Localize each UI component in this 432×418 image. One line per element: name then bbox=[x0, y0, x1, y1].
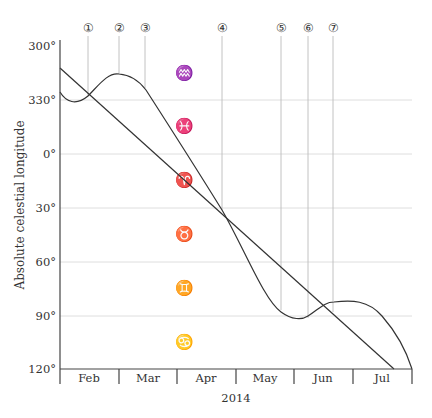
y-axis-title: Absolute celestial longitude bbox=[13, 120, 27, 290]
y-tick-labels: 300° 330° 0° 30° 60° 90° 120° bbox=[28, 39, 56, 376]
gemini-icon: ♊ bbox=[175, 279, 194, 297]
marker-7: ⑦ bbox=[328, 21, 339, 35]
marker-3: ③ bbox=[140, 21, 151, 35]
marker-4: ④ bbox=[217, 21, 228, 35]
event-lines bbox=[88, 36, 333, 318]
y-tick-120: 120° bbox=[28, 362, 56, 376]
pisces-icon: ♓ bbox=[175, 117, 194, 135]
gridlines bbox=[60, 100, 412, 316]
y-tick-30: 30° bbox=[36, 201, 56, 215]
x-tick-labels: Feb Mar Apr May Jun Jul bbox=[78, 371, 390, 385]
marker-1: ① bbox=[83, 21, 94, 35]
month-apr: Apr bbox=[194, 371, 217, 385]
month-feb: Feb bbox=[78, 371, 100, 385]
aquarius-icon: ♒ bbox=[175, 64, 194, 82]
wavy-curve-series bbox=[60, 74, 412, 369]
month-jun: Jun bbox=[312, 371, 333, 385]
chart: ① ② ③ ④ ⑤ ⑥ ⑦ ♒ ♓ ♈ ♉ ♊ ♋ 300° 330° 0° 3… bbox=[0, 0, 432, 418]
month-may: May bbox=[252, 371, 278, 385]
taurus-icon: ♉ bbox=[175, 225, 194, 243]
y-tick-330: 330° bbox=[28, 93, 56, 107]
x-axis-title: 2014 bbox=[221, 391, 250, 405]
y-tick-60: 60° bbox=[36, 255, 56, 269]
marker-2: ② bbox=[114, 21, 125, 35]
y-tick-0: 0° bbox=[43, 147, 56, 161]
event-markers: ① ② ③ ④ ⑤ ⑥ ⑦ bbox=[83, 21, 339, 35]
marker-6: ⑥ bbox=[303, 21, 314, 35]
zodiac-symbols: ♒ ♓ ♈ ♉ ♊ ♋ bbox=[175, 64, 194, 351]
y-tick-300: 300° bbox=[28, 39, 56, 53]
marker-5: ⑤ bbox=[276, 21, 287, 35]
month-mar: Mar bbox=[136, 371, 161, 385]
cancer-icon: ♋ bbox=[175, 333, 194, 351]
y-tick-90: 90° bbox=[36, 309, 56, 323]
month-jul: Jul bbox=[373, 371, 390, 385]
